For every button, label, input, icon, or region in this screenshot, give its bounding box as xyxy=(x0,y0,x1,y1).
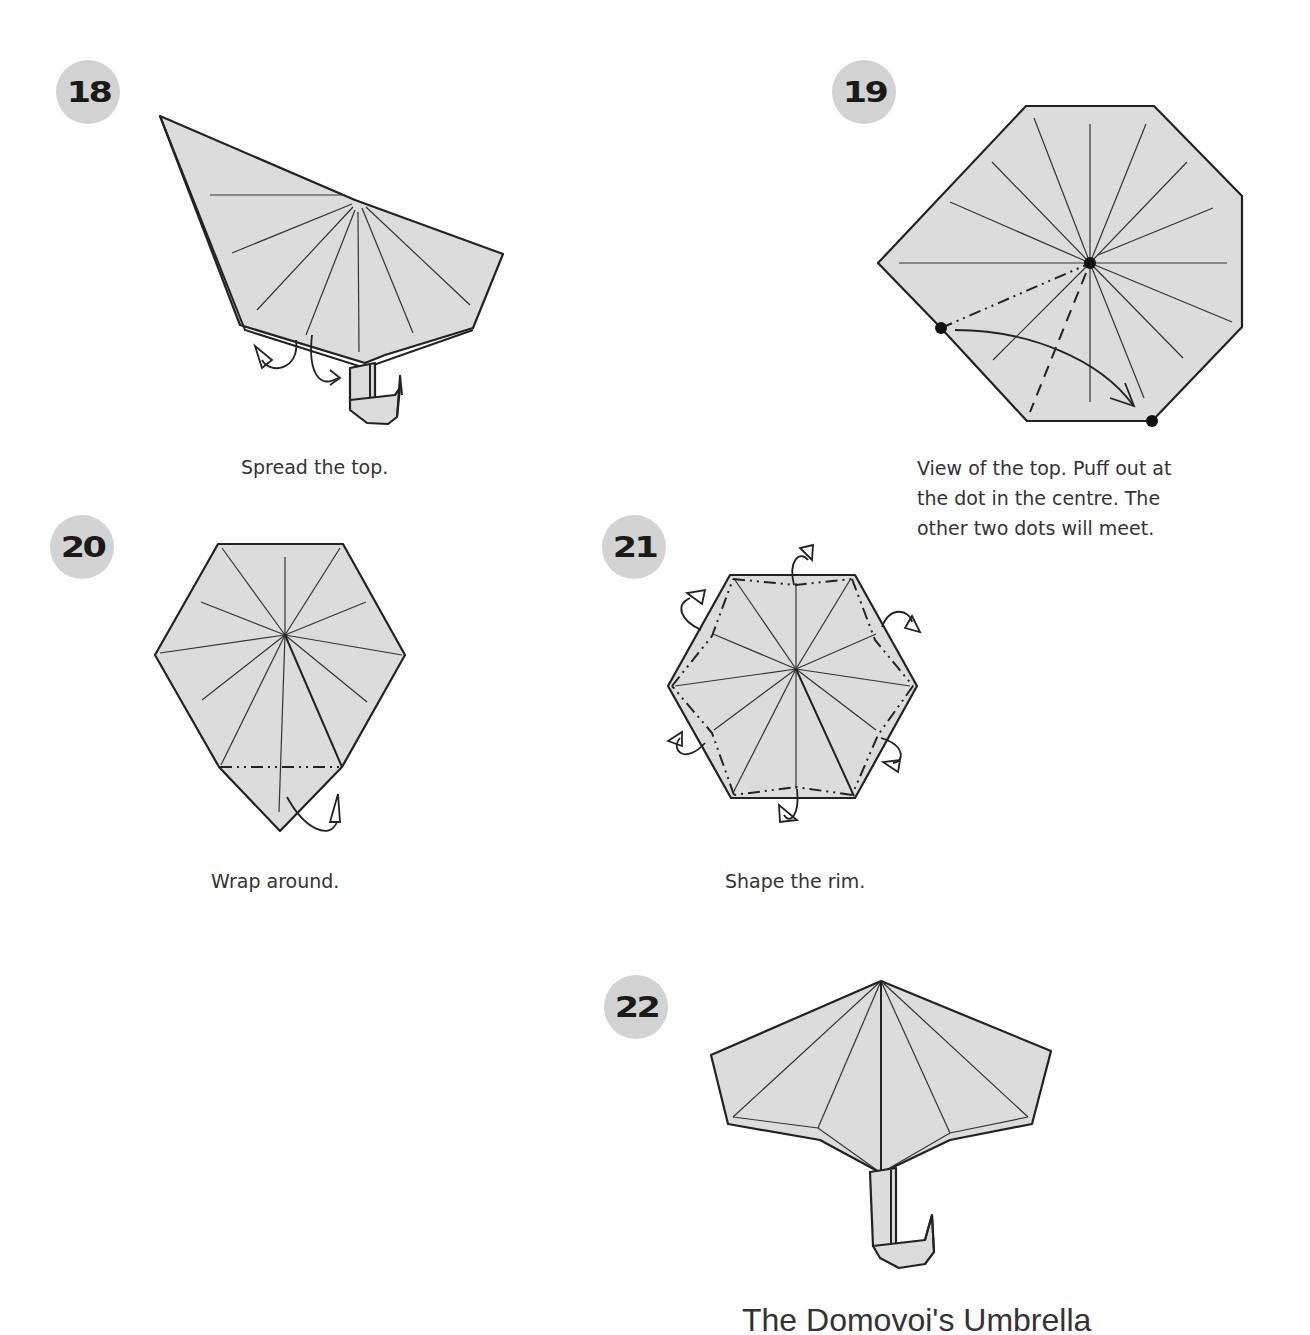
step-22-caption: The Domovoi's Umbrella xyxy=(742,1302,1091,1335)
